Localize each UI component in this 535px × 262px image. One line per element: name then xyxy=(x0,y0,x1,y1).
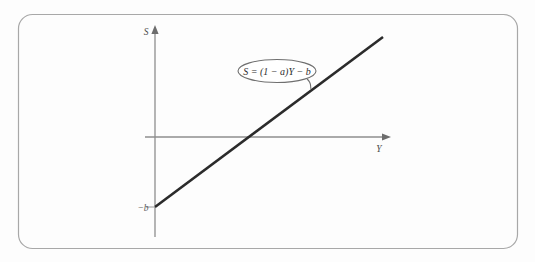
savings-function-diagram: S Y −b S = (1 − a)Y − b xyxy=(0,0,535,262)
equation-label: S = (1 − a)Y − b xyxy=(243,66,310,78)
y-intercept-label: −b xyxy=(137,203,148,213)
vertical-axis-label: S xyxy=(144,27,149,37)
figure-frame xyxy=(19,15,518,249)
figure-container: S Y −b S = (1 − a)Y − b xyxy=(0,0,535,262)
